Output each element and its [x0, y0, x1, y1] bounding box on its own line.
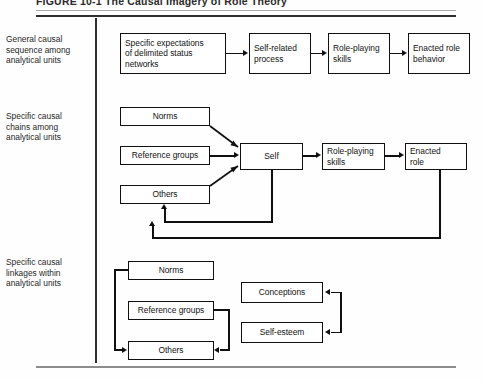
row-label-specific-causal-chains: Specific causal chains among analytical … — [6, 111, 90, 143]
node-self-related-process[interactable]: Self-related process — [249, 33, 311, 74]
arrow-head-into-conceptions — [325, 289, 330, 295]
figure-root: FIGURE 10-1 The Causal Imagery of Role T… — [0, 0, 485, 381]
node-reference-groups-row2[interactable]: Reference groups — [120, 146, 210, 165]
bracket-norms-vertical — [114, 269, 116, 350]
arrow-line-r1-2to3 — [311, 53, 322, 55]
feedback-self-horizontal — [164, 221, 273, 223]
node-others-row2[interactable]: Others — [120, 185, 210, 204]
node-self-esteem[interactable]: Self-esteem — [241, 322, 323, 343]
arrow-head-r1-2to3 — [322, 50, 327, 56]
bracket-selfesteem-bottom — [331, 332, 342, 334]
arrow-head-refgroups-to-self — [234, 152, 239, 158]
arrow-head-self-to-skills — [316, 152, 321, 158]
node-role-playing-skills-row2[interactable]: Role-playing skills — [322, 143, 385, 170]
arrow-line-r1-3to4 — [390, 53, 402, 55]
column-divider — [95, 18, 97, 363]
arrow-head-r1-3to4 — [402, 50, 407, 56]
footer-rule — [36, 366, 456, 368]
arrow-head-skills-to-enacted — [399, 152, 404, 158]
bracket-refgroups-bottom — [220, 349, 230, 351]
header-rule-thick — [36, 15, 456, 17]
feedback-enacted-vertical — [439, 170, 441, 239]
arrow-head-refgroups-to-others — [214, 347, 219, 353]
arrow-head-r1-1to2 — [243, 50, 248, 56]
arrow-head-norms-to-others — [122, 347, 127, 353]
arrow-line-self-to-skills — [303, 155, 316, 157]
bracket-norms-top — [114, 269, 129, 271]
node-norms-row3[interactable]: Norms — [128, 261, 214, 280]
arrow-line-refgroups-to-self — [210, 155, 234, 157]
bracket-norms-bottom — [114, 349, 122, 351]
arrow-line-skills-to-enacted — [385, 155, 399, 157]
row-label-general-causal-sequence: General causal sequence among analytical… — [6, 34, 90, 66]
node-enacted-role-row2[interactable]: Enacted role — [405, 143, 467, 170]
feedback-self-riser — [164, 209, 166, 222]
header-rule-thin — [36, 10, 456, 11]
bracket-conceptions-selfesteem-vertical — [340, 292, 342, 333]
row-label-specific-causal-linkages: Specific causal linkages within analytic… — [6, 257, 90, 289]
node-role-playing-skills-row1[interactable]: Role-playing skills — [328, 33, 390, 74]
bracket-refgroups-vertical — [228, 309, 230, 350]
arrow-head-into-self-esteem — [325, 329, 330, 335]
node-conceptions[interactable]: Conceptions — [241, 282, 323, 303]
node-reference-groups-row3[interactable]: Reference groups — [128, 301, 214, 320]
node-self-row2[interactable]: Self — [240, 143, 303, 170]
figure-title: FIGURE 10-1 The Causal Imagery of Role T… — [36, 0, 287, 7]
node-enacted-role-behavior[interactable]: Enacted role behavior — [408, 33, 470, 74]
feedback-enacted-riser — [152, 226, 154, 238]
bracket-conceptions-top — [331, 292, 342, 294]
feedback-self-vertical — [271, 170, 273, 223]
arrow-line-r1-1to2 — [226, 53, 243, 55]
feedback-enacted-horizontal — [152, 237, 441, 239]
node-norms-row2[interactable]: Norms — [120, 107, 210, 126]
node-specific-expectations[interactable]: Specific expectations of delimited statu… — [120, 33, 226, 74]
node-others-row3[interactable]: Others — [128, 341, 214, 360]
feedback-enacted-arrowhead — [149, 221, 155, 226]
feedback-self-arrowhead — [161, 204, 167, 209]
